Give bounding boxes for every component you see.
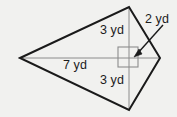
label-lower-segment: 3 yd <box>100 74 124 87</box>
label-arrow-dimension: 2 yd <box>145 13 169 26</box>
right-angle-marker-icon <box>118 47 138 67</box>
dimension-arrow-icon <box>134 25 163 57</box>
geometry-figure: 3 yd 3 yd 7 yd 2 yd <box>0 0 177 117</box>
label-horizontal-diagonal: 7 yd <box>63 59 87 72</box>
label-upper-segment: 3 yd <box>100 24 124 37</box>
